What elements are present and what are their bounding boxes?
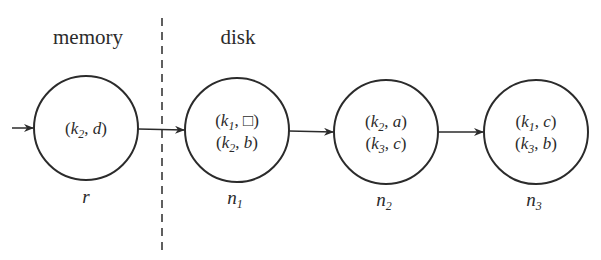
node-entry: (k1, □) <box>215 111 259 133</box>
node-entry: (k2, a) <box>365 112 407 134</box>
node-entry: (k3, c) <box>366 134 407 156</box>
node-entry: (k3, b) <box>515 134 557 156</box>
node-label: n3 <box>526 189 542 213</box>
edge-n1-to-n2 <box>289 131 333 132</box>
node-label: n2 <box>376 189 392 213</box>
node-r: (k2, d) r <box>34 76 138 207</box>
node-label: r <box>82 186 90 207</box>
linked-list-diagram: memory disk (k2, d) r (k1, □) (k2, b) n1… <box>0 0 601 260</box>
node-circle <box>334 80 438 184</box>
node-circle <box>484 80 588 184</box>
node-n2: (k2, a) (k3, c) n2 <box>334 80 438 213</box>
empty-value-box-icon: □ <box>243 111 253 130</box>
node-entry: (k1, c) <box>516 112 557 134</box>
node-entry: (k2, b) <box>216 133 258 155</box>
edge-r-to-n1 <box>138 129 184 130</box>
memory-region-label: memory <box>53 25 123 49</box>
node-n1: (k1, □) (k2, b) n1 <box>185 78 289 211</box>
node-label: n1 <box>227 187 243 211</box>
node-n3: (k1, c) (k3, b) n3 <box>484 80 588 213</box>
node-entry: (k2, d) <box>65 119 107 141</box>
disk-region-label: disk <box>220 25 256 49</box>
node-circle <box>185 78 289 182</box>
